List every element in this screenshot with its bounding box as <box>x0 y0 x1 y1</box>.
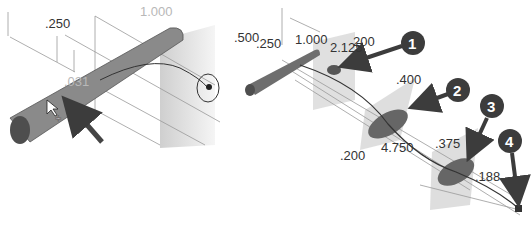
dimension-label: 1.000 <box>140 4 173 19</box>
dimension-label: .400 <box>396 72 421 87</box>
svg-text:3: 3 <box>487 98 495 115</box>
svg-text:2: 2 <box>453 82 461 99</box>
callout-4: 4 <box>498 129 522 153</box>
loft-end-cap <box>245 84 255 96</box>
loft-solid-small <box>248 50 320 95</box>
callout-1: 1 <box>401 31 425 55</box>
callout-4-leader <box>512 153 518 200</box>
callout-2-leader <box>415 94 448 106</box>
callout-3: 3 <box>480 94 504 118</box>
section-1 <box>327 65 341 75</box>
dimension-label: .375 <box>435 136 460 151</box>
left-view: + .250 1.000 .031 <box>8 4 220 148</box>
dimension-label: 200 <box>353 34 375 49</box>
dimension-label: 4.750 <box>381 140 414 155</box>
pointer-arrow <box>68 103 102 142</box>
dimension-label: .250 <box>256 36 281 51</box>
callout-2: 2 <box>446 78 470 102</box>
right-view: 1 2 3 4 .500 .250 1.000 2.125 200 .400 .… <box>234 8 522 215</box>
loft-solid <box>10 28 183 142</box>
dimension-label: .188 <box>475 169 500 184</box>
profile-center <box>206 84 212 90</box>
dimension-label: .250 <box>45 16 70 31</box>
dimension-label: 1.000 <box>295 32 328 47</box>
loft-end-cap <box>10 116 30 144</box>
plus-icon: + <box>55 112 61 124</box>
cad-illustration: + .250 1.000 .031 <box>0 0 532 230</box>
svg-text:4: 4 <box>505 133 514 150</box>
dimension-label: .031 <box>64 74 89 89</box>
dimension-label: .200 <box>340 148 365 163</box>
svg-text:1: 1 <box>408 35 416 52</box>
